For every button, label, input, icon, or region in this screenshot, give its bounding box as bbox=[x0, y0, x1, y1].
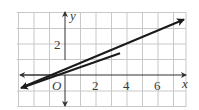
x-axis-label: x bbox=[181, 76, 188, 91]
origin-label: O bbox=[52, 78, 62, 93]
data-line bbox=[24, 20, 184, 87]
y-axis-label: y bbox=[68, 8, 76, 23]
x-tick-label: 2 bbox=[92, 78, 99, 93]
coordinate-plane: y 2 O 2 4 6 x bbox=[0, 0, 199, 110]
y-tick-label: 2 bbox=[54, 37, 61, 52]
x-tick-label: 6 bbox=[154, 78, 161, 93]
x-tick-label: 4 bbox=[123, 78, 130, 93]
